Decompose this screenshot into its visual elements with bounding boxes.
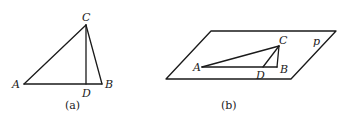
point-label-a: A: [192, 61, 201, 74]
plane-p: [166, 31, 336, 79]
point-label-c: C: [82, 11, 91, 24]
caption-b: (b): [221, 99, 237, 112]
segment-ac: [24, 25, 86, 84]
point-label-b: B: [104, 78, 113, 91]
point-label-b: B: [279, 63, 288, 76]
diagram-canvas: A B C D (a) A B C D p (b): [0, 0, 349, 128]
point-label-c: C: [279, 34, 288, 47]
segment-cb: [86, 25, 102, 84]
point-label-d: D: [255, 69, 265, 82]
caption-a: (a): [65, 99, 80, 112]
point-label-a: A: [11, 78, 20, 91]
point-label-d: D: [81, 87, 91, 100]
segment-ac: [202, 46, 279, 67]
figure-a: A B C D (a): [11, 11, 113, 112]
figure-b: A B C D p (b): [166, 31, 336, 112]
plane-label-p: p: [313, 35, 320, 48]
